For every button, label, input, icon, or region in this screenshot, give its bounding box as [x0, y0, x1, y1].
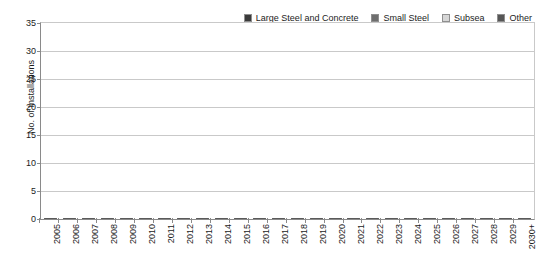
legend-swatch-icon — [371, 14, 379, 22]
x-label-slot: 2005 — [40, 224, 59, 264]
x-label-slot: 2015 — [230, 224, 249, 264]
x-tick-mark — [115, 218, 116, 223]
bar-slot — [363, 23, 382, 219]
y-tick-label: 15 — [26, 130, 36, 140]
x-tick-mark — [39, 218, 40, 223]
x-label-slot: 2012 — [173, 224, 192, 264]
bar-slot — [345, 23, 364, 219]
x-tick-mark — [191, 218, 192, 223]
bar-slot — [212, 23, 231, 219]
x-label-slot: 2014 — [211, 224, 230, 264]
bar-group — [41, 23, 534, 219]
x-label-slot: 2009 — [116, 224, 135, 264]
x-tick-mark — [229, 218, 230, 223]
x-label-slot: 2008 — [97, 224, 116, 264]
x-label-slot: 2025 — [419, 224, 438, 264]
legend-swatch-icon — [442, 14, 450, 22]
x-label-slot: 2016 — [249, 224, 268, 264]
x-tick-mark — [77, 218, 78, 223]
bar-slot — [382, 23, 401, 219]
bar-slot — [288, 23, 307, 219]
x-tick-mark — [418, 218, 419, 223]
bar-slot — [496, 23, 515, 219]
y-tick-label: 35 — [26, 18, 36, 28]
x-label-slot: 2006 — [59, 224, 78, 264]
bar-slot — [155, 23, 174, 219]
x-label-slot: 2028 — [476, 224, 495, 264]
x-tick-mark — [286, 218, 287, 223]
x-tick-mark — [134, 218, 135, 223]
legend-swatch-icon — [244, 14, 252, 22]
x-label-slot: 2007 — [78, 224, 97, 264]
bar-slot — [401, 23, 420, 219]
bar-slot — [79, 23, 98, 219]
x-label-slot: 2010 — [135, 224, 154, 264]
bar-slot — [269, 23, 288, 219]
y-tick-label: 5 — [31, 186, 36, 196]
x-tick-mark — [399, 218, 400, 223]
x-tick-mark — [305, 218, 306, 223]
y-tick-label: 20 — [26, 102, 36, 112]
x-label-slot: 2030+ — [514, 224, 533, 264]
bar-slot — [174, 23, 193, 219]
x-tick-mark — [248, 218, 249, 223]
y-tick-label: 25 — [26, 74, 36, 84]
bar-slot — [250, 23, 269, 219]
x-label-slot: 2018 — [287, 224, 306, 264]
x-tick-mark — [513, 218, 514, 223]
x-tick-mark — [267, 218, 268, 223]
x-tick-mark — [475, 218, 476, 223]
x-tick-mark — [494, 218, 495, 223]
x-label-slot: 2011 — [154, 224, 173, 264]
bar-slot — [117, 23, 136, 219]
y-axis-title: No. of Installations — [26, 22, 36, 172]
x-label-slot: 2020 — [325, 224, 344, 264]
bar-slot — [326, 23, 345, 219]
x-tick-mark — [210, 218, 211, 223]
x-tick-mark — [172, 218, 173, 223]
bar-slot — [60, 23, 79, 219]
x-tick-mark — [58, 218, 59, 223]
x-label-slot: 2023 — [381, 224, 400, 264]
plot-area: 05101520253035 — [40, 22, 535, 220]
x-tick-mark — [456, 218, 457, 223]
x-label-slot: 2022 — [362, 224, 381, 264]
bar-slot — [458, 23, 477, 219]
x-label-slot: 2027 — [457, 224, 476, 264]
x-tick-mark — [324, 218, 325, 223]
x-tick-mark — [96, 218, 97, 223]
x-tick-mark — [437, 218, 438, 223]
x-label-slot: 2019 — [306, 224, 325, 264]
x-tick-mark — [343, 218, 344, 223]
x-label-slot: 2024 — [400, 224, 419, 264]
bar-slot — [515, 23, 534, 219]
bar-slot — [98, 23, 117, 219]
bar-slot — [136, 23, 155, 219]
x-label-slot: 2026 — [438, 224, 457, 264]
bar-slot — [420, 23, 439, 219]
stacked-bar-chart: Large Steel and ConcreteSmall SteelSubse… — [0, 0, 539, 264]
bar-slot — [193, 23, 212, 219]
x-label-slot: 2017 — [268, 224, 287, 264]
x-label-slot: 2029 — [495, 224, 514, 264]
bar-slot — [477, 23, 496, 219]
bar-slot — [307, 23, 326, 219]
x-tick-mark — [361, 218, 362, 223]
x-label-slot: 2013 — [192, 224, 211, 264]
bar-slot — [41, 23, 60, 219]
x-tick-mark — [380, 218, 381, 223]
y-tick-label: 0 — [31, 214, 36, 224]
legend-swatch-icon — [497, 14, 505, 22]
x-axis-tick-label: 2030+ — [528, 224, 537, 249]
x-tick-mark — [153, 218, 154, 223]
y-tick-label: 10 — [26, 158, 36, 168]
bar-slot — [439, 23, 458, 219]
x-label-slot: 2021 — [344, 224, 363, 264]
bar-slot — [231, 23, 250, 219]
y-tick-label: 30 — [26, 46, 36, 56]
x-axis-labels: 2005200620072008200920102011201220132014… — [40, 224, 533, 264]
